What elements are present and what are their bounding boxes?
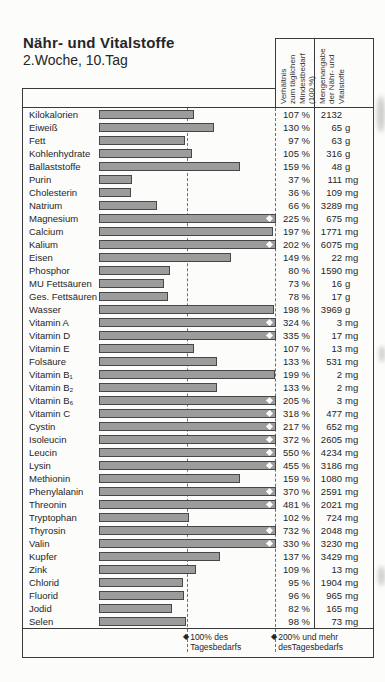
row-amount-value: 3289 [314,200,342,211]
row-bar [99,201,157,210]
nutrient-row: Chlorid 95 % 1904 mg [23,576,373,589]
row-amount-value: 965 [314,590,342,601]
header-top-border [275,38,374,39]
row-bar-track [99,498,276,511]
row-bar-track [99,355,276,368]
nutrient-row: Vitamin B₆ 205 % 3 mg [23,394,373,407]
row-amount: 73 mg [314,616,373,627]
row-amount-value: 63 [314,135,342,146]
row-amount-value: 531 [314,356,342,367]
nutrient-row: Lysin 455 % 3186 mg [23,459,373,472]
row-bar [99,240,276,249]
row-amount-unit: g [342,304,371,315]
row-pct: 107 % [276,343,314,354]
row-bar-track [99,537,276,550]
row-bar-track [99,381,276,394]
row-bar [99,162,240,171]
diamond-icon: ◆ [183,632,189,642]
row-bar-track [99,446,276,459]
row-label: Lysin [23,460,99,471]
row-amount: 2 mg [314,369,373,380]
row-pct: 197 % [276,226,314,237]
row-label: Vitamin C [23,408,99,419]
scan-artifact [378,566,385,586]
row-label: Cystin [23,421,99,432]
legend-label-100: 100% des Tagesbedarfs [190,632,241,652]
row-label: Tryptophan [23,512,99,523]
row-amount: 16 g [314,278,373,289]
diamond-icon: ◆ [271,632,277,642]
row-pct: 130 % [276,122,314,133]
row-amount: 22 mg [314,252,373,263]
row-bar [99,253,231,262]
row-bar [99,526,276,535]
row-amount-unit: mg [342,200,371,211]
row-pct: 98 % [276,616,314,627]
row-amount-value: 17 [314,330,342,341]
row-bar-track [99,303,276,316]
nutrient-row: Wasser 198 % 3969 g [23,303,373,316]
nutrient-row: Valin 330 % 3230 mg [23,537,373,550]
row-bar-track [99,316,276,329]
row-bar-track [99,329,276,342]
row-label: Leucin [23,447,99,458]
row-amount-unit: mg [342,226,371,237]
nutrient-row: Cholesterin 36 % 109 mg [23,186,373,199]
row-bar-track [99,433,276,446]
row-label: Folsäure [23,356,99,367]
row-bar [99,539,276,548]
bar-cap-diamond-icon [266,215,273,222]
row-amount-unit: mg [342,187,371,198]
row-pct: 97 % [276,135,314,146]
row-amount: 724 mg [314,512,373,523]
nutrient-row: Jodid 82 % 165 mg [23,602,373,615]
row-amount-unit: mg [342,603,371,614]
row-amount: 2605 mg [314,434,373,445]
nutrient-row: Natrium 66 % 3289 mg [23,199,373,212]
row-bar-track [99,615,276,628]
row-amount-value: 3186 [314,460,342,471]
row-bar [99,279,164,288]
row-amount: 675 mg [314,213,373,224]
row-amount: 531 mg [314,356,373,367]
row-bar-track [99,147,276,160]
row-amount: 3 mg [314,317,373,328]
row-label: Jodid [23,603,99,614]
row-pct: 133 % [276,382,314,393]
row-amount-value: 6075 [314,239,342,250]
row-amount-unit: g [342,161,371,172]
page-title: Nähr- und Vitalstoffe [23,34,174,52]
row-label: Magnesium [23,213,99,224]
row-bar [99,344,194,353]
row-amount-value: 73 [314,616,342,627]
bar-cap-diamond-icon [266,501,273,508]
row-amount-unit: mg [342,239,371,250]
row-bar [99,292,168,301]
nutrient-row: Purin 37 % 111 mg [23,173,373,186]
row-amount-unit: mg [342,460,371,471]
row-amount: 65 g [314,122,373,133]
nutrient-row: Ballaststoffe 159 % 48 g [23,160,373,173]
row-amount-value: 13 [314,343,342,354]
row-pct: 102 % [276,512,314,523]
row-amount-value: 2605 [314,434,342,445]
row-amount: 3 mg [314,395,373,406]
nutrient-row: Eiweiß 130 % 65 g [23,121,373,134]
row-amount-unit: mg [342,564,371,575]
legend-item-200: ◆ 200% und mehr desTagesbedarfs [271,632,343,652]
row-bar [99,500,276,509]
row-amount-unit: mg [342,577,371,588]
row-amount: 3429 mg [314,551,373,562]
row-amount: 2132 [314,109,373,120]
row-label: Isoleucin [23,434,99,445]
row-label: Methionin [23,473,99,484]
row-amount: 3186 mg [314,460,373,471]
row-pct: 66 % [276,200,314,211]
nutrient-row: Fluorid 96 % 965 mg [23,589,373,602]
row-amount-unit: mg [342,213,371,224]
row-bar [99,617,186,626]
row-bar [99,513,189,522]
row-pct: 550 % [276,447,314,458]
row-amount-value: 4234 [314,447,342,458]
row-amount-unit: g [342,122,371,133]
